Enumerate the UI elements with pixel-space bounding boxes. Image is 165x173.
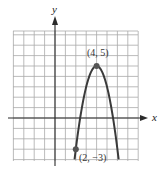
y-axis-label: y xyxy=(51,3,57,15)
x-axis-arrow-icon xyxy=(140,115,148,121)
point-label-vertex: (4, 5) xyxy=(87,47,109,59)
data-point-1 xyxy=(73,146,79,152)
x-axis-label: x xyxy=(151,111,157,123)
chart: x y (4, 5) (2, −3) xyxy=(0,0,165,173)
point-label-2: (2, −3) xyxy=(79,152,106,164)
y-axis-arrow-icon xyxy=(52,16,58,25)
axes xyxy=(8,16,148,166)
data-point-0 xyxy=(94,63,100,69)
grid xyxy=(13,31,138,161)
